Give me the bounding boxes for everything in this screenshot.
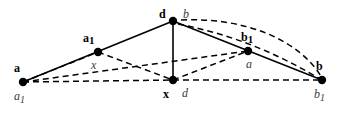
label-x-italic-base: x <box>91 58 96 72</box>
label-x-italic: x <box>91 59 96 71</box>
label-a1-italic: a1 <box>14 90 25 105</box>
label-b1-bold-subscript: 1 <box>248 33 254 45</box>
label-a-bold-base: a <box>14 61 20 75</box>
label-b-bold-base: b <box>316 59 323 73</box>
label-b1-bold-base: b <box>241 30 248 44</box>
label-a1-bold: a1 <box>83 32 95 46</box>
label-b1-italic: b1 <box>314 88 325 103</box>
dashed-xbottom-to-b1 <box>173 51 248 80</box>
label-a-bold: a <box>14 62 20 74</box>
label-b1-bold: b1 <box>241 31 253 45</box>
diagram-canvas <box>0 0 356 113</box>
label-d-italic-base: d <box>182 86 188 100</box>
vertex-b1[interactable] <box>244 47 252 55</box>
label-a1-bold-subscript: 1 <box>89 34 95 46</box>
vertex-b[interactable] <box>318 76 326 84</box>
label-d-bold: d <box>159 8 166 20</box>
vertex-a[interactable] <box>19 78 27 86</box>
label-b-italic-top: b <box>183 8 189 20</box>
dashed-a-to-xbottom <box>23 80 173 82</box>
label-b1-italic-subscript: 1 <box>320 92 325 103</box>
label-x-bold: x <box>163 88 169 100</box>
vertex-a1[interactable] <box>94 48 102 56</box>
dashed-a1-to-xbottom <box>98 52 173 80</box>
label-d-bold-base: d <box>159 7 166 21</box>
label-a-italic-mid-base: a <box>246 57 252 71</box>
label-a1-italic-subscript: 1 <box>20 94 25 105</box>
label-x-bold-base: x <box>163 87 169 101</box>
label-a-italic-mid: a <box>246 58 252 70</box>
label-d-italic: d <box>182 87 188 99</box>
label-b-bold: b <box>316 60 323 72</box>
label-b-italic-top-base: b <box>183 7 189 21</box>
vertex-x-bottom[interactable] <box>169 76 177 84</box>
geometry-diagram: aa1a1xdbb1abb1xd <box>0 0 356 113</box>
vertex-d-top[interactable] <box>169 17 177 25</box>
